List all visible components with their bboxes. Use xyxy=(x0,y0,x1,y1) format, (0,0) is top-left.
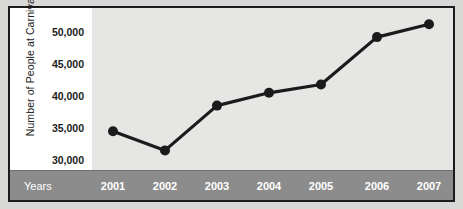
data-point-2006[interactable] xyxy=(372,32,382,42)
x-axis-band: Years 2001 2002 2003 2004 2005 2006 2007 xyxy=(10,170,453,200)
plot-area xyxy=(92,8,453,170)
x-axis-tick-label-2007: 2007 xyxy=(417,180,441,192)
line-series-plot xyxy=(92,8,453,170)
x-axis-title: Years xyxy=(24,180,52,192)
x-axis-tick-label-2004: 2004 xyxy=(257,180,281,192)
data-point-2005[interactable] xyxy=(316,79,326,89)
y-axis-tick-label-40000: 40,000 xyxy=(52,90,84,102)
x-axis-tick-label-2002: 2002 xyxy=(153,180,177,192)
data-point-2001[interactable] xyxy=(108,126,118,136)
x-axis-tick-label-2005: 2005 xyxy=(309,180,333,192)
y-axis-tick-label-50000: 50,000 xyxy=(52,26,84,38)
y-axis-title: Number of People at Carnival xyxy=(24,0,36,141)
y-axis-tick-label-45000: 45,000 xyxy=(52,58,84,70)
y-axis-tick-label-35000: 35,000 xyxy=(52,122,84,134)
data-point-2003[interactable] xyxy=(212,101,222,111)
y-axis-band: Number of People at Carnival 50,000 45,0… xyxy=(10,8,92,170)
data-point-2002[interactable] xyxy=(160,145,170,155)
chart-figure-frame: Number of People at Carnival 50,000 45,0… xyxy=(8,6,455,202)
y-axis-tick-label-30000: 30,000 xyxy=(52,154,84,166)
x-axis-tick-label-2003: 2003 xyxy=(205,180,229,192)
x-axis-tick-label-2006: 2006 xyxy=(365,180,389,192)
series-line xyxy=(113,24,429,150)
data-point-2007[interactable] xyxy=(424,19,434,29)
data-point-2004[interactable] xyxy=(264,88,274,98)
chart-screenshot: Number of People at Carnival 50,000 45,0… xyxy=(0,0,463,209)
x-axis-tick-label-2001: 2001 xyxy=(101,180,125,192)
